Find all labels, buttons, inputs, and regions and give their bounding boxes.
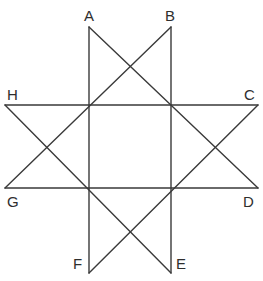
edge-C-F <box>89 105 258 273</box>
star-figure-container: A B C D E F G H <box>0 0 263 281</box>
star-polygon-svg <box>0 0 263 281</box>
edge-H-E <box>5 105 171 273</box>
vertex-label-A: A <box>84 8 94 23</box>
vertex-label-H: H <box>7 87 18 102</box>
edge-B-G <box>5 27 171 188</box>
vertex-label-F: F <box>73 256 82 271</box>
vertex-label-D: D <box>243 194 254 209</box>
vertex-label-G: G <box>7 194 19 209</box>
edge-group <box>5 27 258 273</box>
vertex-label-E: E <box>176 256 186 271</box>
vertex-label-B: B <box>165 8 175 23</box>
vertex-label-C: C <box>244 87 255 102</box>
edge-A-D <box>89 27 258 188</box>
